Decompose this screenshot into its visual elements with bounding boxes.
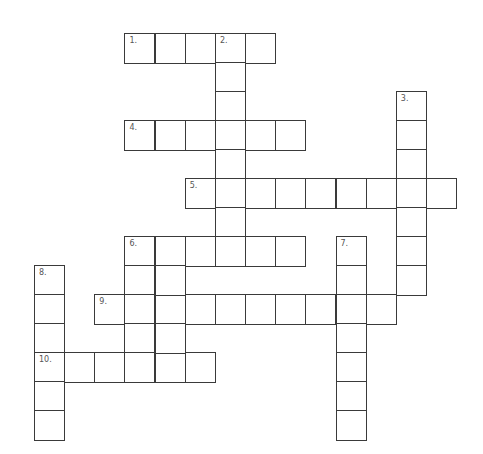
crossword-cell[interactable] xyxy=(275,120,306,151)
crossword-cell[interactable] xyxy=(94,352,125,383)
crossword-cell[interactable] xyxy=(155,352,186,383)
crossword-cell[interactable] xyxy=(245,294,276,325)
crossword-cell[interactable] xyxy=(185,120,216,151)
crossword-cell[interactable] xyxy=(124,352,155,383)
crossword-cell[interactable] xyxy=(305,294,336,325)
crossword-cell[interactable] xyxy=(215,62,246,93)
crossword-cell[interactable] xyxy=(155,265,186,296)
crossword-cell[interactable] xyxy=(336,323,367,354)
crossword-cell[interactable] xyxy=(366,178,397,209)
crossword-cell[interactable]: 4. xyxy=(124,120,155,151)
crossword-cell[interactable] xyxy=(34,410,65,441)
crossword-cell[interactable] xyxy=(185,352,216,383)
crossword-cell[interactable] xyxy=(155,294,186,325)
crossword-cell[interactable]: 7. xyxy=(336,236,367,267)
crossword-cell[interactable]: 8. xyxy=(34,265,65,296)
crossword-cell[interactable] xyxy=(245,178,276,209)
crossword-cell[interactable] xyxy=(155,120,186,151)
clue-number: 5. xyxy=(190,182,198,190)
crossword-cell[interactable] xyxy=(396,207,427,238)
crossword-cell[interactable] xyxy=(215,294,246,325)
crossword-cell[interactable] xyxy=(396,178,427,209)
crossword-cell[interactable] xyxy=(336,294,367,325)
crossword-cell[interactable] xyxy=(34,381,65,412)
crossword-cell[interactable] xyxy=(245,236,276,267)
crossword-cell[interactable] xyxy=(215,149,246,180)
crossword-cell[interactable] xyxy=(396,149,427,180)
crossword-cell[interactable]: 1. xyxy=(124,33,155,64)
clue-number: 7. xyxy=(341,240,349,248)
clue-number: 4. xyxy=(129,124,137,132)
crossword-cell[interactable] xyxy=(215,236,246,267)
crossword-cell[interactable] xyxy=(245,33,276,64)
crossword-cell[interactable] xyxy=(155,33,186,64)
crossword-cell[interactable] xyxy=(124,294,155,325)
crossword-cell[interactable]: 6. xyxy=(124,236,155,267)
crossword-cell[interactable] xyxy=(275,178,306,209)
crossword-cell[interactable]: 3. xyxy=(396,91,427,122)
crossword-cell[interactable] xyxy=(336,265,367,296)
clue-number: 10. xyxy=(39,356,52,364)
crossword-cell[interactable] xyxy=(185,294,216,325)
crossword-cell[interactable] xyxy=(124,265,155,296)
crossword-cell[interactable] xyxy=(396,236,427,267)
crossword-cell[interactable] xyxy=(215,91,246,122)
crossword-cell[interactable] xyxy=(396,265,427,296)
clue-number: 8. xyxy=(39,269,47,277)
crossword-cell[interactable] xyxy=(275,236,306,267)
crossword-cell[interactable] xyxy=(366,294,397,325)
clue-number: 2. xyxy=(220,37,228,45)
crossword-cell[interactable] xyxy=(155,323,186,354)
crossword-cell[interactable] xyxy=(336,178,367,209)
clue-number: 6. xyxy=(129,240,137,248)
crossword-cell[interactable] xyxy=(34,294,65,325)
crossword-cell[interactable] xyxy=(426,178,457,209)
crossword-cell[interactable] xyxy=(275,294,306,325)
crossword-cell[interactable] xyxy=(185,236,216,267)
crossword-cell[interactable] xyxy=(34,323,65,354)
crossword-cell[interactable] xyxy=(336,381,367,412)
crossword-cell[interactable] xyxy=(245,120,276,151)
crossword-cell[interactable] xyxy=(305,178,336,209)
crossword-cell[interactable]: 2. xyxy=(215,33,246,64)
crossword-cell[interactable]: 5. xyxy=(185,178,216,209)
clue-number: 1. xyxy=(129,37,137,45)
crossword-cell[interactable] xyxy=(124,323,155,354)
crossword-cell[interactable]: 9. xyxy=(94,294,125,325)
clue-number: 9. xyxy=(99,298,107,306)
crossword-cell[interactable] xyxy=(215,207,246,238)
crossword-cell[interactable] xyxy=(215,120,246,151)
crossword-cell[interactable] xyxy=(185,33,216,64)
crossword-cell[interactable] xyxy=(155,236,186,267)
clue-number: 3. xyxy=(401,95,409,103)
crossword-cell[interactable] xyxy=(336,352,367,383)
crossword-cell[interactable] xyxy=(336,410,367,441)
crossword-cell[interactable] xyxy=(64,352,95,383)
crossword-cell[interactable] xyxy=(396,120,427,151)
crossword-cell[interactable]: 10. xyxy=(34,352,65,383)
crossword-cell[interactable] xyxy=(215,178,246,209)
crossword-grid: 1.2.3.4.5.6.7.8.10.9. xyxy=(0,0,483,454)
